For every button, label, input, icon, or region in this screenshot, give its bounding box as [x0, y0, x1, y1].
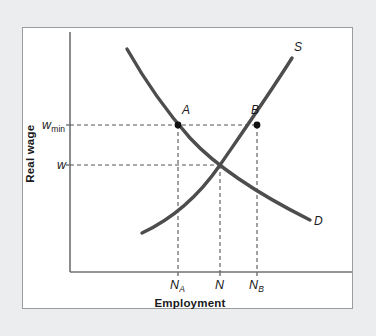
point-label-a: A [182, 104, 190, 116]
y-tick-label-w-base: w [57, 158, 66, 172]
x-tick-label-nb-base: N [249, 278, 258, 292]
x-tick-label-na-base: N [170, 278, 179, 292]
x-tick-label-n: N [215, 279, 224, 292]
point-label-b: B [251, 104, 259, 116]
y-axis-title: Real wage [25, 109, 37, 199]
y-tick-label-w: w [57, 159, 66, 172]
x-axis-title: Employment [130, 298, 250, 310]
y-tick-label-wmin-subscript: min [51, 124, 65, 134]
y-tick-label-wmin-base: w [42, 118, 51, 132]
supply-curve [142, 58, 292, 233]
demand-curve-label: D [314, 215, 323, 227]
data-point-a [175, 122, 182, 129]
x-tick-label-nb-subscript: B [258, 284, 264, 294]
x-tick-label-nb: NB [249, 279, 264, 292]
figure-root: Real wage Employment wmin w NA N NB S D … [0, 0, 376, 336]
y-tick-label-wmin: wmin [42, 119, 65, 132]
x-tick-label-na-subscript: A [179, 284, 185, 294]
data-point-b [254, 122, 261, 129]
x-tick-label-n-base: N [215, 278, 224, 292]
x-tick-label-na: NA [170, 279, 185, 292]
supply-curve-label: S [294, 41, 302, 53]
